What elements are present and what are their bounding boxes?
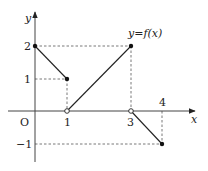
function-graph: y x O 2 1 −1 1 3 4 y=f(x) [0, 0, 208, 171]
y-tick-neg1: −1 [16, 138, 32, 151]
closed-point-0-2 [33, 44, 37, 48]
origin-label: O [20, 116, 29, 129]
y-axis-label: y [24, 12, 32, 25]
y-tick-1: 1 [24, 73, 31, 86]
x-axis-label: x [191, 113, 198, 126]
x-tick-3: 3 [127, 116, 134, 129]
closed-point-1-1 [65, 77, 69, 81]
dashed-guides [35, 46, 162, 144]
x-tick-1: 1 [64, 116, 71, 129]
segment-2 [67, 46, 131, 111]
segment-1 [35, 46, 67, 79]
closed-point-3-2 [129, 44, 133, 48]
open-point-3-0 [129, 109, 134, 114]
open-point-1-0 [65, 109, 70, 114]
curve-label: y=f(x) [127, 27, 162, 40]
segment-3 [131, 111, 162, 144]
closed-point-4-neg1 [160, 142, 164, 146]
function-curve [35, 46, 162, 144]
x-tick-4: 4 [159, 96, 166, 109]
y-tick-2: 2 [24, 40, 31, 53]
